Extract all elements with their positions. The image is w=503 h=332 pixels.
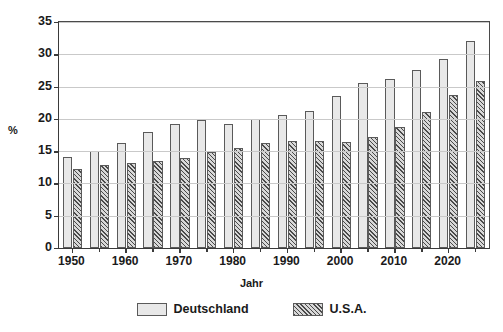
y-tick-mark-30 [54,54,59,55]
gridline-25 [59,87,489,88]
x-tick-label-1980: 1980 [208,254,258,268]
legend-entry-usa[interactable]: U.S.A. [293,302,367,316]
plot-area [58,21,490,249]
bar-usa-1995 [315,141,324,248]
bar-usa-2025 [476,81,485,248]
y-tick-label-30: 30 [12,46,52,60]
x-tick-mark-minor-1985 [260,248,261,252]
bar-usa-1950 [73,169,82,248]
x-tick-label-1950: 1950 [46,254,96,268]
x-tick-mark-1950 [72,248,73,253]
bar-deutschland-1955 [90,151,99,248]
y-axis-title: % [8,124,18,136]
x-tick-mark-minor-1955 [99,248,100,252]
x-tick-mark-1970 [179,248,180,253]
y-tick-mark-10 [54,183,59,184]
gridline-20 [59,119,489,120]
x-tick-label-1960: 1960 [100,254,150,268]
bar-usa-1960 [127,163,136,248]
bar-deutschland-1950 [63,157,72,248]
bar-usa-1975 [207,152,216,248]
bar-deutschland-1990 [278,115,287,248]
gridline-15 [59,151,489,152]
bar-deutschland-2015 [412,70,421,248]
chart-legend: DeutschlandU.S.A. [0,302,503,316]
y-tick-label-25: 25 [12,79,52,93]
bar-usa-1955 [100,165,109,248]
dark-diagonal-hatch-swatch [293,303,323,316]
bar-deutschland-1970 [170,124,179,248]
legend-label: U.S.A. [330,302,367,316]
x-tick-mark-minor-1995 [314,248,315,252]
bar-deutschland-1995 [305,111,314,248]
bar-deutschland-2010 [385,79,394,248]
x-tick-mark-minor-1965 [152,248,153,252]
bar-usa-1970 [180,158,189,248]
y-tick-mark-15 [54,151,59,152]
legend-entry-deutschland[interactable]: Deutschland [137,302,249,316]
x-tick-label-2000: 2000 [315,254,365,268]
bar-deutschland-1980 [224,124,233,248]
y-tick-label-10: 10 [12,175,52,189]
x-tick-label-2020: 2020 [423,254,473,268]
y-tick-label-35: 35 [12,14,52,28]
x-tick-label-1990: 1990 [261,254,311,268]
gridline-35 [59,22,489,23]
x-tick-mark-minor-1975 [206,248,207,252]
bar-usa-1965 [153,161,162,248]
bar-deutschland-1965 [143,132,152,248]
y-tick-mark-20 [54,119,59,120]
bar-usa-2000 [342,142,351,248]
x-axis-title: Jahr [0,277,503,289]
bars-layer [59,22,489,248]
y-tick-label-20: 20 [12,111,52,125]
y-tick-label-0: 0 [12,240,52,254]
y-tick-mark-0 [54,248,59,249]
x-tick-label-2010: 2010 [369,254,419,268]
gridline-30 [59,54,489,55]
bar-deutschland-1960 [117,143,126,248]
gridline-5 [59,216,489,217]
y-tick-label-5: 5 [12,208,52,222]
bar-deutschland-2020 [439,59,448,248]
bar-usa-2010 [395,127,404,248]
bar-usa-2015 [422,112,431,248]
y-tick-mark-5 [54,216,59,217]
x-tick-mark-2000 [340,248,341,253]
x-tick-mark-minor-2015 [421,248,422,252]
x-tick-mark-1990 [287,248,288,253]
x-tick-mark-2010 [394,248,395,253]
x-tick-mark-minor-2025 [475,248,476,252]
y-tick-mark-25 [54,87,59,88]
gridline-10 [59,183,489,184]
bar-usa-1980 [234,148,243,248]
y-tick-mark-35 [54,22,59,23]
bar-usa-2005 [368,137,377,248]
bar-deutschland-2025 [466,41,475,248]
x-tick-mark-1980 [233,248,234,253]
x-tick-label-1970: 1970 [154,254,204,268]
bar-deutschland-2005 [358,83,367,248]
bar-chart: % Jahr DeutschlandU.S.A. 051015202530351… [0,0,503,332]
bar-usa-1990 [288,141,297,248]
x-tick-mark-minor-2005 [367,248,368,252]
bar-usa-1985 [261,143,270,248]
light-cross-hatch-swatch [137,303,167,316]
legend-label: Deutschland [174,302,249,316]
y-tick-label-15: 15 [12,143,52,157]
x-tick-mark-1960 [125,248,126,253]
x-tick-mark-2020 [448,248,449,253]
